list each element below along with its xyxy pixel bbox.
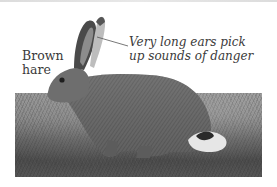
leader-line <box>0 0 277 187</box>
ear-annotation-line2: up sounds of danger <box>129 49 253 63</box>
ear-annotation: Very long ears pick up sounds of danger <box>129 35 253 63</box>
species-label-line2: hare <box>22 63 63 77</box>
species-label: Brown hare <box>22 49 63 77</box>
species-label-line1: Brown <box>22 49 63 63</box>
ear-annotation-line1: Very long ears pick <box>129 35 253 49</box>
